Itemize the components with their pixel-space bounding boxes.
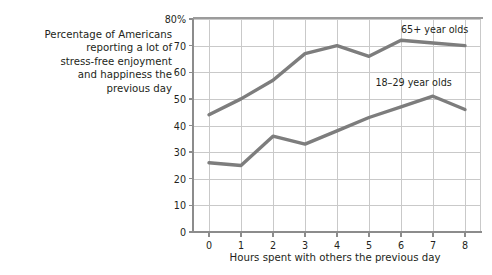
x-tick-label: 7 — [423, 240, 443, 251]
x-tick-label: 0 — [199, 240, 219, 251]
x-tick-mark — [272, 232, 273, 237]
x-tick-label: 3 — [295, 240, 315, 251]
x-tick-mark — [432, 232, 433, 237]
x-axis-title: Hours spent with others the previous day — [190, 252, 480, 263]
y-tick-label: 0 — [152, 227, 186, 238]
x-tick-mark — [464, 232, 465, 237]
y-tick-label: 80% — [152, 14, 186, 25]
x-tick-mark — [336, 232, 337, 237]
y-tick-label: 20 — [152, 173, 186, 184]
x-tick-label: 6 — [391, 240, 411, 251]
series-label: 18–29 year olds — [375, 77, 451, 88]
x-tick-mark — [240, 232, 241, 237]
y-tick-label: 60 — [152, 67, 186, 78]
x-tick-mark — [368, 232, 369, 237]
y-tick-label: 40 — [152, 120, 186, 131]
series-line — [209, 96, 465, 165]
x-tick-mark — [208, 232, 209, 237]
y-axis-title: Percentage of Americans reporting a lot … — [16, 28, 172, 95]
x-tick-label: 1 — [231, 240, 251, 251]
x-tick-label: 8 — [455, 240, 475, 251]
series-lines — [193, 19, 481, 232]
y-tick-label: 50 — [152, 93, 186, 104]
y-tick-label: 70 — [152, 40, 186, 51]
y-tick-label: 30 — [152, 147, 186, 158]
series-label: 65+ year olds — [401, 24, 468, 35]
x-tick-label: 2 — [263, 240, 283, 251]
x-tick-label: 4 — [327, 240, 347, 251]
x-tick-mark — [400, 232, 401, 237]
x-tick-mark — [304, 232, 305, 237]
y-tick-label: 10 — [152, 200, 186, 211]
plot-area — [193, 19, 481, 232]
x-tick-label: 5 — [359, 240, 379, 251]
chart-figure: Percentage of Americans reporting a lot … — [0, 0, 492, 275]
